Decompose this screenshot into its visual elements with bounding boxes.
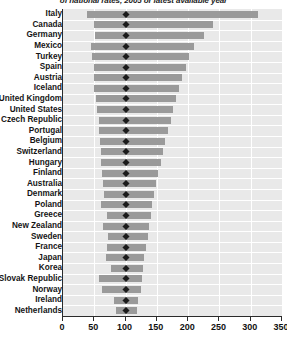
- row-separator: [63, 252, 282, 253]
- row-separator: [63, 274, 282, 275]
- x-tick-label: 200: [180, 322, 195, 332]
- category-label-ireland: Ireland: [35, 295, 62, 305]
- row-separator: [63, 263, 282, 264]
- category-label-france: France: [35, 242, 62, 252]
- row-separator: [63, 115, 282, 116]
- bar-spain: [94, 64, 186, 71]
- category-label-finland: Finland: [33, 168, 62, 178]
- x-tick-label: 0: [59, 322, 64, 332]
- category-label-germany: Germany: [27, 30, 63, 40]
- category-label-sweden: Sweden: [31, 232, 62, 242]
- bar-switzerland: [101, 148, 164, 155]
- category-label-mexico: Mexico: [34, 41, 62, 51]
- category-label-canada: Canada: [32, 20, 62, 30]
- row-separator: [63, 147, 282, 148]
- category-label-korea: Korea: [39, 263, 62, 273]
- bar-portugal: [99, 127, 168, 134]
- category-label-switzerland: Switzerland: [17, 147, 63, 157]
- x-tick-label: 150: [148, 322, 163, 332]
- gridline-250: [219, 9, 220, 316]
- category-label-belgium: Belgium: [30, 136, 62, 146]
- x-tick-label: 250: [211, 322, 226, 332]
- category-label-czech-republic: Czech Republic: [1, 115, 62, 125]
- row-separator: [63, 157, 282, 158]
- category-label-denmark: Denmark: [27, 189, 62, 199]
- bar-belgium: [100, 138, 165, 145]
- category-label-portugal: Portugal: [29, 126, 62, 136]
- bar-austria: [94, 74, 182, 81]
- bar-canada: [94, 21, 214, 28]
- category-label-united-kingdom: United Kingdom: [0, 94, 62, 104]
- bar-iceland: [94, 85, 179, 92]
- row-separator: [63, 221, 282, 222]
- bar-slovak-republic: [99, 275, 142, 282]
- bar-united-kingdom: [96, 95, 176, 102]
- tick-mark-300: [250, 317, 251, 321]
- tick-mark-0: [62, 317, 63, 321]
- tick-mark-50: [93, 317, 94, 321]
- row-separator: [63, 136, 282, 137]
- row-separator: [63, 189, 282, 190]
- bar-mexico: [91, 43, 195, 50]
- category-label-norway: Norway: [32, 285, 62, 295]
- category-label-turkey: Turkey: [36, 52, 62, 62]
- chart-subtitle: of national rates, 2005 or latest availa…: [0, 0, 287, 5]
- tick-mark-150: [156, 317, 157, 321]
- row-separator: [63, 231, 282, 232]
- bar-italy: [87, 11, 258, 18]
- category-label-austria: Austria: [34, 73, 62, 83]
- category-label-italy: Italy: [46, 9, 62, 19]
- tick-mark-200: [187, 317, 188, 321]
- row-separator: [63, 200, 282, 201]
- category-label-new-zealand: New Zealand: [12, 221, 62, 231]
- row-separator: [63, 284, 282, 285]
- gridline-350: [282, 9, 283, 316]
- chart-container: of national rates, 2005 or latest availa…: [0, 0, 287, 339]
- x-tick-label: 50: [88, 322, 98, 332]
- row-separator: [63, 178, 282, 179]
- category-label-hungary: Hungary: [29, 158, 62, 168]
- x-tick-label: 300: [242, 322, 257, 332]
- category-label-australia: Australia: [27, 179, 62, 189]
- bar-hungary: [101, 159, 161, 166]
- bar-turkey: [92, 53, 190, 60]
- row-separator: [63, 242, 282, 243]
- row-separator: [63, 295, 282, 296]
- category-label-poland: Poland: [35, 200, 62, 210]
- category-label-japan: Japan: [38, 253, 62, 263]
- row-separator: [63, 305, 282, 306]
- category-label-spain: Spain: [40, 62, 62, 72]
- bar-norway: [102, 286, 141, 293]
- tick-mark-350: [281, 317, 282, 321]
- category-label-slovak-republic: Slovak Republic: [0, 274, 62, 284]
- bar-czech-republic: [99, 117, 171, 124]
- bar-united-states: [97, 106, 173, 113]
- bar-germany: [95, 32, 205, 39]
- tick-mark-250: [218, 317, 219, 321]
- category-label-iceland: Iceland: [34, 83, 62, 93]
- gridline-300: [251, 9, 252, 316]
- row-separator: [63, 125, 282, 126]
- row-separator: [63, 168, 282, 169]
- plot-area: [62, 9, 282, 316]
- category-label-greece: Greece: [34, 210, 62, 220]
- category-label-netherlands: Netherlands: [15, 306, 62, 316]
- x-tick-label: 100: [117, 322, 132, 332]
- category-label-united-states: United States: [10, 105, 62, 115]
- row-separator: [63, 210, 282, 211]
- x-tick-label: 350: [273, 322, 287, 332]
- tick-mark-100: [125, 317, 126, 321]
